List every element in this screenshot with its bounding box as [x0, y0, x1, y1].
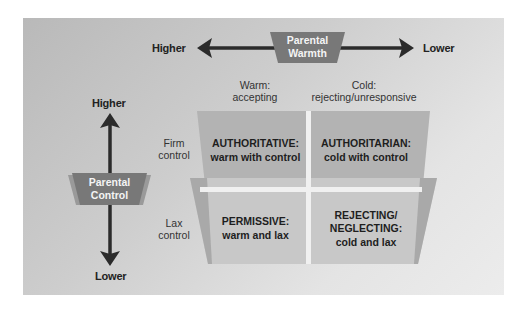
row-header-lax-line1: Lax: [152, 217, 196, 229]
quadrant-authoritative: AUTHORITATIVE: warm with control: [205, 130, 306, 172]
horizontal-divider: [200, 187, 422, 192]
row-header-firm-line1: Firm: [152, 137, 196, 149]
control-higher-label: Higher: [92, 97, 126, 110]
column-header-cold: Cold: rejecting/unresponsive: [304, 79, 424, 103]
row-header-firm: Firm control: [152, 137, 196, 161]
warmth-higher-label: Higher: [152, 42, 186, 55]
row-header-lax: Lax control: [152, 217, 196, 241]
quadrant-authoritarian-desc: cold with control: [324, 151, 408, 165]
control-badge-line1: Parental: [74, 176, 145, 189]
column-header-warm-line1: Warm:: [215, 79, 295, 91]
quadrant-authoritative-title: AUTHORITATIVE:: [212, 137, 299, 151]
control-lower-label: Lower: [95, 270, 126, 283]
quadrant-authoritative-desc: warm with control: [211, 151, 301, 165]
column-header-warm-line2: accepting: [215, 91, 295, 103]
quadrant-permissive: PERMISSIVE: warm and lax: [205, 208, 306, 250]
control-badge-label: Parental Control: [74, 176, 145, 202]
quadrant-permissive-title: PERMISSIVE:: [222, 215, 290, 229]
column-header-warm: Warm: accepting: [215, 79, 295, 103]
quadrant-rejecting-title: REJECTING/: [334, 209, 397, 223]
quadrant-authoritarian-title: AUTHORITARIAN:: [321, 137, 411, 151]
quadrant-permissive-desc: warm and lax: [222, 229, 289, 243]
row-header-lax-line2: control: [152, 229, 196, 241]
quadrant-authoritarian: AUTHORITARIAN: cold with control: [311, 130, 421, 172]
quadrant-rejecting-desc: cold and lax: [336, 236, 397, 250]
warmth-badge-label: Parental Warmth: [272, 34, 343, 60]
quadrant-rejecting-neglecting: REJECTING/ NEGLECTING: cold and lax: [311, 201, 421, 257]
row-header-firm-line2: control: [152, 149, 196, 161]
warmth-badge-line1: Parental: [272, 34, 343, 47]
column-header-cold-line2: rejecting/unresponsive: [304, 91, 424, 103]
warmth-lower-label: Lower: [423, 42, 454, 55]
warmth-badge-line2: Warmth: [272, 47, 343, 60]
quadrant-rejecting-title2: NEGLECTING:: [330, 222, 402, 236]
column-header-cold-line1: Cold:: [304, 79, 424, 91]
control-badge-line2: Control: [74, 189, 145, 202]
